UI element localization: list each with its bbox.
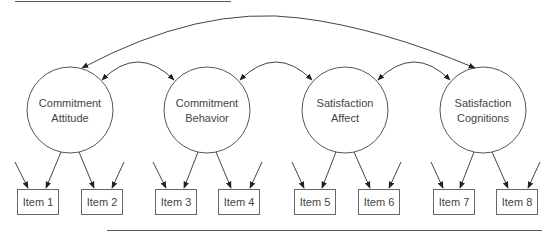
indicator-item-3: Item 3 [155, 189, 197, 215]
factor-label-satisfaction-affect: Satisfaction Affect [302, 96, 388, 126]
covariance-arc-f1-f4 [82, 16, 475, 68]
factor-label-line2: Behavior [164, 111, 250, 126]
covariance-arc-f2-f3 [240, 62, 312, 80]
covariance-arc-f3-f4 [378, 62, 450, 80]
indicator-item-4: Item 4 [218, 189, 260, 215]
factor-label-line1: Commitment [27, 96, 113, 111]
factor-label-commitment-behavior: Commitment Behavior [164, 96, 250, 126]
indicator-item-5: Item 5 [294, 189, 336, 215]
factor-label-line2: Affect [302, 111, 388, 126]
covariance-arc-f1-f2 [102, 62, 174, 80]
indicator-item-7: Item 7 [433, 189, 475, 215]
sem-diagram: Commitment Attitude Commitment Behavior … [0, 0, 556, 233]
indicator-item-2: Item 2 [81, 189, 123, 215]
factor-label-line1: Commitment [164, 96, 250, 111]
factor-label-line2: Attitude [27, 111, 113, 126]
indicator-item-8: Item 8 [496, 189, 538, 215]
factor-label-line2: Cognitions [440, 111, 526, 126]
factor-label-commitment-attitude: Commitment Attitude [27, 96, 113, 126]
factor-label-line1: Satisfaction [302, 96, 388, 111]
factor-label-line1: Satisfaction [440, 96, 526, 111]
indicator-item-6: Item 6 [358, 189, 400, 215]
factor-label-satisfaction-cognitions: Satisfaction Cognitions [440, 96, 526, 126]
indicator-item-1: Item 1 [17, 189, 59, 215]
factor-loadings [46, 152, 508, 188]
